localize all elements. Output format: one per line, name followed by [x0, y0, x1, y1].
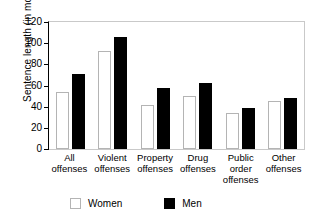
bar-men — [72, 74, 85, 149]
bar-group — [141, 22, 170, 149]
y-tick-label-80: 80 — [31, 59, 42, 69]
bar-groups — [49, 22, 304, 149]
x-axis-tick-labels: Alloffenses Violentoffenses Propertyoffe… — [48, 152, 305, 185]
bar-men — [114, 37, 127, 149]
bar-group — [268, 22, 297, 149]
legend-item-women: Women — [70, 198, 122, 209]
y-tick-mark-0 — [44, 149, 49, 150]
x-tick-label: Alloffenses — [48, 152, 91, 185]
y-tick-label-100: 100 — [25, 38, 42, 48]
white-square-swatch-icon — [70, 198, 81, 209]
black-square-swatch-icon — [164, 198, 175, 209]
bar-men — [157, 88, 170, 149]
y-tick-label-20: 20 — [31, 123, 42, 133]
y-tick-label-120: 120 — [25, 17, 42, 27]
x-tick-label: Publicorderoffenses — [219, 152, 262, 185]
x-tick-label: Violentoffenses — [91, 152, 134, 185]
bar-women — [183, 96, 196, 149]
plot-area: 120 100 80 60 40 20 0 — [48, 21, 305, 150]
bar-women — [98, 51, 111, 149]
bar-group — [56, 22, 85, 149]
chart-legend: Women Men — [70, 198, 270, 209]
y-tick-label-0: 0 — [36, 144, 42, 154]
legend-label-women: Women — [88, 199, 122, 209]
bar-chart-figure: Sentence length (in months) 120 100 80 6… — [0, 0, 327, 223]
y-tick-label-60: 60 — [31, 81, 42, 91]
bar-women — [141, 105, 154, 149]
bar-men — [199, 83, 212, 149]
y-tick-label-40: 40 — [31, 102, 42, 112]
legend-item-men: Men — [164, 198, 201, 209]
legend-label-men: Men — [182, 199, 201, 209]
bar-men — [242, 108, 255, 149]
x-tick-label: Otheroffenses — [262, 152, 305, 185]
x-tick-label: Drugoffenses — [176, 152, 219, 185]
bar-women — [56, 92, 69, 149]
bar-group — [98, 22, 127, 149]
bar-women — [268, 101, 281, 149]
bar-women — [226, 113, 239, 149]
x-tick-label: Propertyoffenses — [134, 152, 177, 185]
bar-group — [226, 22, 255, 149]
bar-men — [284, 98, 297, 149]
bar-group — [183, 22, 212, 149]
